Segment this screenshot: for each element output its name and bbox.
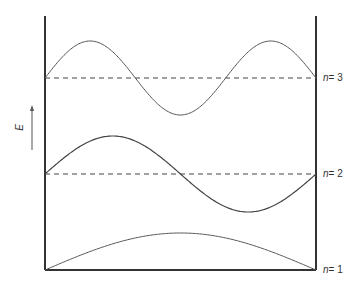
wave-n1 <box>45 233 316 270</box>
n-value: = 1 <box>329 264 343 275</box>
arrow-head-icon <box>30 105 34 111</box>
n-value: = 2 <box>329 168 343 179</box>
energy-axis-label: E <box>14 124 25 131</box>
n-value: = 3 <box>329 72 343 83</box>
level-label-n3: n= 3 <box>323 72 343 83</box>
energy-level-diagram <box>0 0 360 285</box>
level-label-n1: n= 1 <box>323 264 343 275</box>
level-label-n2: n= 2 <box>323 168 343 179</box>
